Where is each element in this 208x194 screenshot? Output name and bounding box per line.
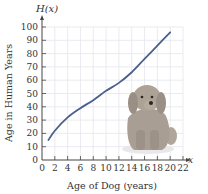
svg-text:16: 16 bbox=[139, 163, 151, 173]
svg-text:14: 14 bbox=[126, 163, 138, 173]
svg-text:8: 8 bbox=[90, 163, 96, 173]
svg-text:4: 4 bbox=[65, 163, 71, 173]
svg-text:10: 10 bbox=[27, 142, 39, 152]
svg-text:10: 10 bbox=[100, 163, 112, 173]
svg-text:50: 50 bbox=[27, 89, 39, 99]
svg-text:0: 0 bbox=[32, 155, 38, 165]
svg-text:30: 30 bbox=[27, 115, 39, 125]
x-tick-labels: 0246810121416182022 bbox=[39, 163, 189, 173]
svg-text:80: 80 bbox=[27, 49, 39, 59]
svg-text:100: 100 bbox=[21, 22, 38, 32]
dog-illustration bbox=[122, 85, 177, 154]
svg-text:12: 12 bbox=[113, 163, 124, 173]
svg-text:6: 6 bbox=[78, 163, 84, 173]
svg-text:40: 40 bbox=[27, 102, 39, 112]
y-axis-label: Age in Human Years bbox=[3, 44, 14, 143]
svg-text:2: 2 bbox=[52, 163, 58, 173]
function-label: H(x) bbox=[35, 3, 58, 14]
x-axis-symbol: x bbox=[188, 155, 193, 165]
svg-text:20: 20 bbox=[27, 128, 39, 138]
svg-text:70: 70 bbox=[27, 62, 39, 72]
svg-text:0: 0 bbox=[39, 163, 45, 173]
svg-text:18: 18 bbox=[152, 163, 164, 173]
svg-text:20: 20 bbox=[164, 163, 176, 173]
svg-text:90: 90 bbox=[27, 35, 39, 45]
svg-text:60: 60 bbox=[27, 75, 39, 85]
y-tick-labels: 0102030405060708090100 bbox=[21, 22, 38, 165]
chart-container: H(x) x Age of Dog (years) Age in Human Y… bbox=[0, 0, 208, 194]
svg-text:22: 22 bbox=[177, 163, 188, 173]
line-chart: H(x) x Age of Dog (years) Age in Human Y… bbox=[0, 0, 208, 194]
x-axis-label: Age of Dog (years) bbox=[66, 180, 157, 191]
